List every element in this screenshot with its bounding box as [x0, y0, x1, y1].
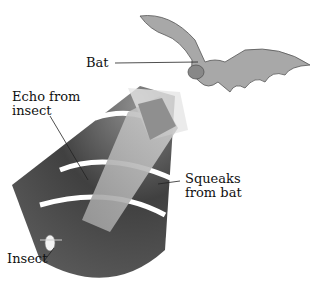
- label-insect: Insect: [7, 252, 47, 266]
- label-bat: Bat: [86, 56, 109, 70]
- bat-echolocation-diagram: Bat Echo from insect Squeaks from bat In…: [0, 0, 327, 294]
- bat-illustration: [140, 16, 310, 93]
- label-echo-line2: insect: [12, 104, 51, 118]
- label-echo-line1: Echo from: [12, 90, 80, 104]
- diagram-graphic: [0, 0, 327, 294]
- label-squeaks-line1: Squeaks: [185, 172, 241, 186]
- label-squeaks-line2: from bat: [185, 186, 242, 200]
